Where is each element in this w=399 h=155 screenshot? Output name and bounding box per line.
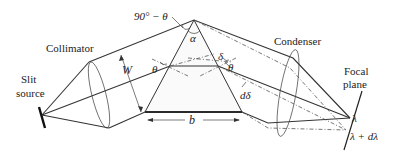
prism-spectrometer-diagram: Slit source Collimator Condenser Focal p… <box>0 0 399 155</box>
label-lambda-dlambda: λ + dλ <box>349 130 378 142</box>
collimator-lens <box>84 60 114 129</box>
slit-source <box>39 107 45 128</box>
label-plane: plane <box>343 78 367 90</box>
label-collimator: Collimator <box>46 42 94 54</box>
label-theta-in: θ <box>152 63 158 75</box>
label-b: b <box>189 113 195 127</box>
d-delta-leader <box>242 82 246 87</box>
label-d-delta: dδ <box>240 89 252 101</box>
theta-in-arc <box>160 62 167 65</box>
label-focal: Focal <box>344 65 368 77</box>
label-theta-out: θ <box>228 61 234 73</box>
label-delta: δ <box>218 50 224 62</box>
label-slit: Slit <box>21 73 36 85</box>
complement-arc <box>182 25 190 29</box>
label-condenser: Condenser <box>274 35 321 47</box>
label-source: source <box>16 87 45 99</box>
label-apex-complement: 90° − θ <box>134 10 168 22</box>
label-alpha: α <box>190 32 196 44</box>
label-w: W <box>122 63 133 77</box>
label-lambda: λ <box>351 112 357 124</box>
